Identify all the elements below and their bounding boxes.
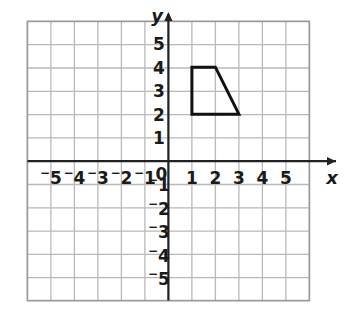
- x-tick-1: 1: [186, 168, 198, 188]
- x-tick-3: 3: [233, 168, 245, 188]
- y-tick-5: 5: [153, 34, 165, 54]
- coordinate-plane-figure: −5 −4 −3 −2 −1 0 1 2 3 4 5 5 4 3 2 1 −1: [0, 0, 354, 320]
- y-tick-4: 4: [153, 58, 165, 78]
- y-tick-1: 1: [153, 128, 165, 148]
- x-tick-2: 2: [209, 168, 221, 188]
- y-tick-3: 3: [153, 81, 165, 101]
- y-tick-2: 2: [153, 105, 165, 125]
- x-tick-4: 4: [256, 168, 268, 188]
- coordinate-plane-svg: −5 −4 −3 −2 −1 0 1 2 3 4 5 5 4 3 2 1 −1: [0, 0, 354, 320]
- x-axis-label: x: [325, 167, 339, 188]
- y-axis-label: y: [151, 5, 164, 26]
- x-tick-5: 5: [280, 168, 292, 188]
- figure-background: [0, 0, 354, 320]
